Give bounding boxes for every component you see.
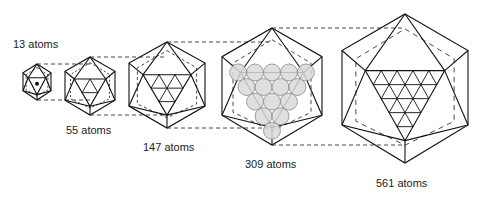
label-13-atoms: 13 atoms xyxy=(13,38,58,50)
label-309-atoms: 309 atoms xyxy=(245,158,296,170)
label-55-atoms: 55 atoms xyxy=(66,124,111,136)
label-147-atoms: 147 atoms xyxy=(143,141,194,153)
label-561-atoms: 561 atoms xyxy=(376,177,427,189)
cluster-drawing xyxy=(0,0,484,198)
icosahedral-clusters-diagram: 13 atoms 55 atoms 147 atoms 309 atoms 56… xyxy=(0,0,484,198)
